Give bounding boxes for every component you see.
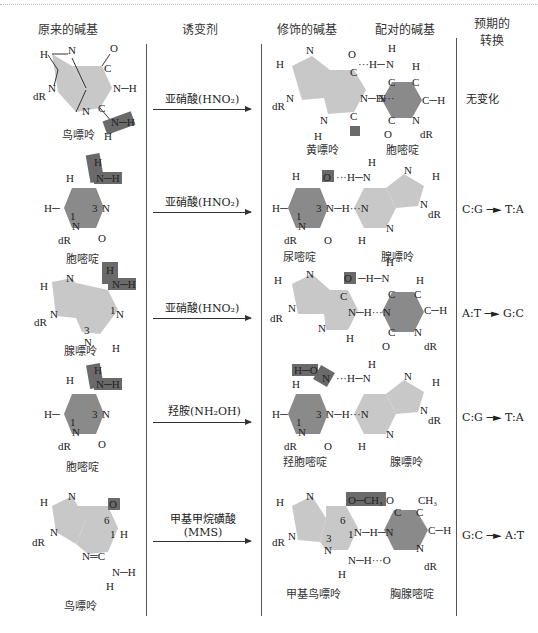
svg-text:H: H: [112, 342, 120, 354]
svg-text:H: H: [432, 170, 440, 182]
svg-text:O: O: [344, 272, 352, 284]
svg-text:N: N: [414, 326, 422, 338]
guanine-structure-row5: H N N dR O 6 1 H N═C N─H H: [0, 480, 140, 600]
header-expected-transition-line2: 转换: [474, 31, 510, 48]
svg-text:dR: dR: [58, 234, 72, 246]
svg-text:C: C: [350, 110, 357, 122]
svg-text:N: N: [82, 105, 90, 117]
xanthine-cytosine-pair-row1: H N N dR N H O C ···H─ N H C C H C─H N─H…: [262, 40, 454, 150]
svg-text:dR: dR: [270, 312, 284, 324]
svg-text:H─: H─: [272, 408, 288, 420]
svg-text:O: O: [382, 340, 390, 352]
svg-text:O: O: [110, 42, 118, 54]
transition-row5: G:C ─► A:T: [462, 529, 524, 542]
svg-text:H: H: [346, 332, 354, 344]
svg-text:C: C: [98, 102, 105, 114]
svg-text:dR: dR: [32, 536, 46, 548]
methylguanine-thymine-pair-row5: H N N dR O─CH₃ O CH₃ 6 3 1 N─H─N C C C─H…: [262, 480, 454, 590]
svg-text:C: C: [388, 76, 395, 88]
svg-text:N: N: [288, 530, 296, 542]
label-cytosine-row4: 胞嘧啶: [66, 458, 99, 474]
svg-text:O: O: [348, 48, 356, 60]
svg-text:N═C: N═C: [82, 550, 105, 562]
svg-text:N: N: [102, 202, 110, 214]
svg-text:H: H: [358, 440, 366, 452]
svg-text:N─H···N: N─H···N: [326, 202, 369, 214]
svg-text:N: N: [324, 544, 332, 556]
svg-text:─H─N: ─H─N: [357, 272, 390, 284]
mutagen-row1: 亚硝酸(HNO₂): [165, 90, 239, 106]
svg-text:dR: dR: [34, 316, 48, 328]
svg-text:H: H: [368, 156, 376, 168]
svg-text:O: O: [98, 438, 106, 450]
header-paired-base: 配对的碱基: [375, 20, 435, 37]
svg-text:H: H: [66, 172, 74, 184]
svg-text:···H─N: ···H─N: [336, 372, 371, 384]
header-original-base: 原来的碱基: [38, 20, 98, 37]
svg-text:O─CH₃: O─CH₃: [348, 494, 383, 506]
header-expected-transition-line1: 预期的: [474, 14, 510, 31]
label-guanine-row5: 鸟嘌呤: [64, 597, 97, 613]
svg-text:N: N: [298, 426, 306, 438]
svg-text:H─: H─: [272, 202, 288, 214]
svg-text:N─H···O: N─H···O: [348, 554, 391, 566]
svg-text:1: 1: [348, 528, 354, 540]
svg-text:3: 3: [84, 324, 90, 336]
header-modified-base: 修饰的碱基: [277, 20, 337, 37]
svg-text:N: N: [286, 92, 294, 104]
cytosine-structure-row4: H N─H H H─ 1 3 N N dR O: [0, 364, 140, 464]
label-guanine-row1: 鸟嘌呤: [62, 126, 95, 142]
svg-text:N: N: [318, 322, 326, 334]
svg-text:N: N: [48, 82, 56, 94]
top-dotted-rule: [0, 4, 538, 5]
svg-text:3: 3: [326, 532, 332, 544]
svg-text:dR: dR: [284, 234, 298, 246]
svg-text:C: C: [414, 288, 421, 300]
arrow-row4: [153, 422, 251, 423]
svg-text:N: N: [416, 542, 424, 554]
svg-text:O: O: [98, 232, 106, 244]
svg-text:C: C: [340, 290, 347, 302]
svg-text:dR: dR: [420, 128, 434, 140]
svg-text:dR: dR: [428, 208, 442, 220]
svg-text:H: H: [40, 496, 48, 508]
uracil-adenine-pair-row2: H H─ 1 3 N─H···N N dR O O ···H─N H N H N…: [262, 150, 454, 250]
svg-text:H: H: [104, 130, 112, 142]
svg-text:C: C: [388, 326, 395, 338]
column-divider-1: [146, 44, 147, 616]
svg-text:C: C: [388, 288, 395, 300]
svg-text:6: 6: [340, 514, 346, 526]
svg-text:C: C: [412, 76, 419, 88]
svg-text:H: H: [40, 48, 48, 60]
svg-text:N─H: N─H: [112, 278, 136, 290]
svg-text:H: H: [66, 374, 74, 386]
svg-text:H: H: [386, 256, 394, 268]
svg-text:H: H: [368, 358, 376, 370]
svg-text:H─: H─: [44, 408, 60, 420]
svg-text:C─H: C─H: [424, 304, 447, 316]
svg-text:H: H: [276, 496, 284, 508]
svg-text:N: N: [404, 370, 412, 382]
svg-text:C: C: [388, 114, 395, 126]
svg-text:O: O: [324, 234, 332, 246]
svg-text:···H─: ···H─: [358, 58, 385, 70]
svg-text:H: H: [276, 58, 284, 70]
label-methylguanine: 甲基鸟嘌呤: [286, 585, 341, 601]
svg-text:N─H: N─H: [112, 566, 136, 578]
svg-text:N─H: N─H: [113, 82, 137, 94]
svg-text:O: O: [384, 128, 392, 140]
svg-text:N: N: [68, 44, 76, 56]
svg-text:dR: dR: [272, 100, 286, 112]
column-divider-3: [456, 38, 457, 616]
svg-text:H: H: [432, 376, 440, 388]
svg-text:H─: H─: [44, 202, 60, 214]
svg-text:N: N: [66, 272, 74, 284]
svg-text:N: N: [420, 198, 428, 210]
svg-text:N: N: [412, 114, 420, 126]
svg-text:3: 3: [92, 408, 98, 420]
svg-text:N: N: [306, 44, 314, 56]
svg-text:1: 1: [110, 304, 116, 316]
svg-text:N─H: N─H: [111, 116, 135, 128]
svg-text:N: N: [386, 58, 394, 70]
svg-text:N: N: [420, 404, 428, 416]
